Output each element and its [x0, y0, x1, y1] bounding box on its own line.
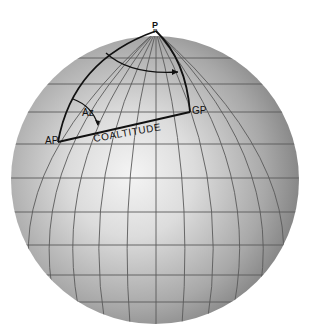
globe-diagram: P n GP AP Az COALTITUDE: [0, 0, 309, 330]
diagram-canvas: P n GP AP Az COALTITUDE: [0, 0, 309, 330]
azimuth-label: Az: [82, 107, 94, 118]
gp-label: GP: [192, 105, 207, 116]
ap-label: AP: [45, 135, 59, 146]
globe-sphere: [11, 36, 299, 324]
pole-subscript: n: [153, 26, 157, 35]
